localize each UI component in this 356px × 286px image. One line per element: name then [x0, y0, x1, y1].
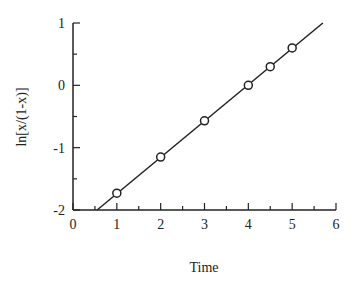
data-point: [157, 153, 165, 161]
x-tick-label: 6: [333, 217, 340, 232]
y-tick-label: -2: [53, 203, 65, 218]
data-point: [266, 63, 274, 71]
x-tick-label: 4: [245, 217, 252, 232]
x-tick-label: 2: [157, 217, 164, 232]
x-axis-label: Time: [189, 260, 218, 275]
x-tick-label: 1: [113, 217, 120, 232]
x-tick-label: 0: [70, 217, 77, 232]
data-point: [113, 189, 121, 197]
data-point: [288, 44, 296, 52]
y-axis-label: ln[x/(1-x)]: [14, 87, 30, 146]
x-tick-label: 3: [201, 217, 208, 232]
y-tick-label: 1: [58, 16, 65, 31]
chart: 0123456-2-101 Time ln[x/(1-x)]: [0, 0, 356, 286]
y-tick-label: 0: [58, 78, 65, 93]
data-point: [244, 81, 252, 89]
y-tick-label: -1: [53, 141, 65, 156]
data-point: [201, 117, 209, 125]
x-tick-label: 5: [289, 217, 296, 232]
